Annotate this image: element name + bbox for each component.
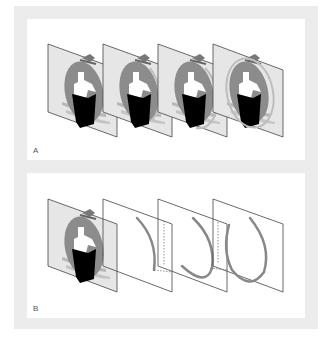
- section-b-label: B: [33, 304, 38, 313]
- diagram-canvas: [0, 0, 332, 337]
- ring-arc-small: [137, 218, 155, 270]
- frame-b3: [158, 199, 227, 292]
- ring-arc-medium: [182, 218, 213, 278]
- section-b-frames: [48, 199, 283, 292]
- frame-b4: [213, 199, 283, 292]
- ring-arc-large: [226, 218, 266, 282]
- dotted-guides: [154, 221, 228, 272]
- section-a-frames: [48, 44, 283, 137]
- frame-b1: [48, 199, 117, 292]
- section-a-label: A: [33, 146, 38, 155]
